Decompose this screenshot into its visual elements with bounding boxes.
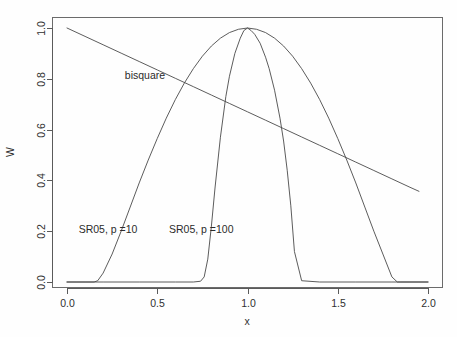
y-tick-label-2: 0.4 xyxy=(35,173,47,188)
y-tick-label-1: 0.2 xyxy=(35,224,47,239)
chart-container: 0.00.51.01.52.0 0.00.20.40.60.81.0 bisqu… xyxy=(0,0,457,337)
annotation-1: SR05, p =10 xyxy=(79,223,138,235)
plot-svg: 0.00.51.01.52.0 0.00.20.40.60.81.0 bisqu… xyxy=(0,0,457,337)
curve-sr05-p-10 xyxy=(67,28,428,282)
annotation-0: bisquare xyxy=(125,69,165,81)
curve-sr05-p-100 xyxy=(67,28,428,282)
data-curves xyxy=(67,28,428,282)
y-axis-ticks xyxy=(47,29,53,283)
y-tick-label-5: 1.0 xyxy=(35,21,47,36)
x-tick-label-4: 2.0 xyxy=(421,297,436,309)
x-axis-title: x xyxy=(244,315,250,327)
y-axis-tick-labels: 0.00.20.40.60.81.0 xyxy=(35,21,47,290)
y-tick-label-3: 0.6 xyxy=(35,123,47,138)
x-axis-ticks xyxy=(68,288,429,294)
y-tick-label-4: 0.8 xyxy=(35,72,47,87)
x-axis-tick-labels: 0.00.51.01.52.0 xyxy=(60,297,436,309)
curve-bisquare xyxy=(67,28,419,191)
x-tick-label-2: 1.0 xyxy=(241,297,256,309)
x-tick-label-3: 1.5 xyxy=(331,297,346,309)
series-annotations: bisquareSR05, p =10SR05, p =100 xyxy=(79,69,234,235)
annotation-2: SR05, p =100 xyxy=(169,223,234,235)
plot-frame xyxy=(53,18,443,288)
y-axis-title: W xyxy=(4,147,16,157)
x-tick-label-1: 0.5 xyxy=(150,297,165,309)
y-tick-label-0: 0.0 xyxy=(35,275,47,290)
x-tick-label-0: 0.0 xyxy=(60,297,75,309)
